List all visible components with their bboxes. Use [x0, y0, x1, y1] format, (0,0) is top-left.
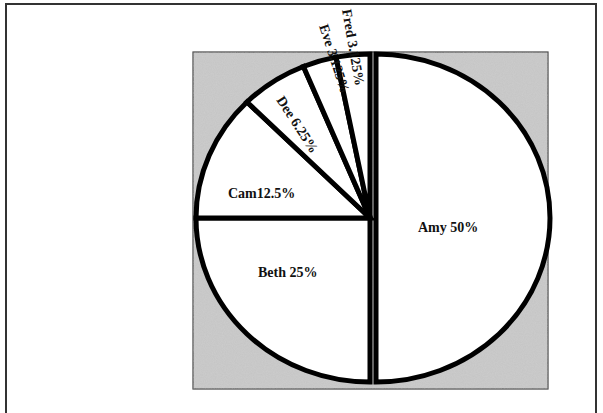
- slice-label-beth: Beth 25%: [258, 265, 318, 280]
- slice-label-cam: Cam12.5%: [228, 186, 295, 201]
- slice-label-amy: Amy 50%: [418, 220, 478, 235]
